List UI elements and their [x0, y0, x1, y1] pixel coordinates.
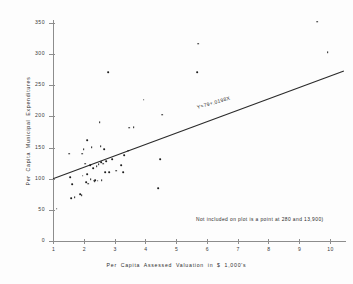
- data-point: [316, 21, 318, 23]
- x-axis-title: Per Capita Assessed Valuation in $ 1,000…: [0, 262, 353, 268]
- data-point: [128, 127, 130, 129]
- footnote-text: Not included on plot is a point at 280 a…: [196, 217, 324, 222]
- data-point: [99, 121, 101, 123]
- data-point: [327, 51, 329, 53]
- data-point: [197, 43, 199, 45]
- data-point: [81, 153, 83, 155]
- data-point: [159, 159, 161, 161]
- data-point: [196, 71, 198, 73]
- data-point: [90, 178, 92, 180]
- data-point: [96, 165, 98, 167]
- data-point: [120, 164, 122, 166]
- data-point: [143, 99, 145, 101]
- chart-page: 050100150200250300350 12345678910 Y=79+.…: [0, 0, 353, 284]
- data-point: [87, 174, 89, 176]
- data-point: [98, 164, 100, 166]
- data-point: [82, 175, 84, 177]
- data-point: [56, 208, 58, 210]
- data-point: [71, 183, 73, 185]
- data-point: [69, 177, 71, 179]
- data-point: [92, 167, 94, 169]
- data-point: [157, 187, 159, 189]
- data-point: [108, 172, 110, 174]
- data-point: [101, 179, 103, 181]
- data-point: [81, 194, 83, 196]
- data-point: [104, 172, 106, 174]
- data-point: [88, 183, 90, 185]
- data-point: [89, 164, 91, 166]
- data-point: [102, 163, 104, 165]
- data-point: [97, 180, 99, 182]
- data-point: [103, 149, 105, 151]
- data-point: [111, 159, 113, 161]
- y-axis-title: Per Capita Municipal Expenditures: [25, 51, 31, 211]
- data-point: [100, 145, 102, 147]
- data-point: [83, 148, 85, 150]
- data-point: [161, 114, 163, 116]
- data-point: [84, 163, 86, 165]
- data-point: [74, 197, 76, 199]
- data-point: [124, 154, 126, 156]
- data-point: [128, 150, 130, 152]
- data-point: [115, 170, 117, 172]
- data-point: [122, 172, 124, 174]
- data-point: [70, 197, 72, 199]
- data-point: [105, 160, 107, 162]
- regression-line: [0, 0, 353, 284]
- data-point: [86, 139, 88, 141]
- data-point: [133, 126, 135, 128]
- data-point: [68, 153, 70, 155]
- data-point: [108, 71, 110, 73]
- data-point: [91, 146, 93, 148]
